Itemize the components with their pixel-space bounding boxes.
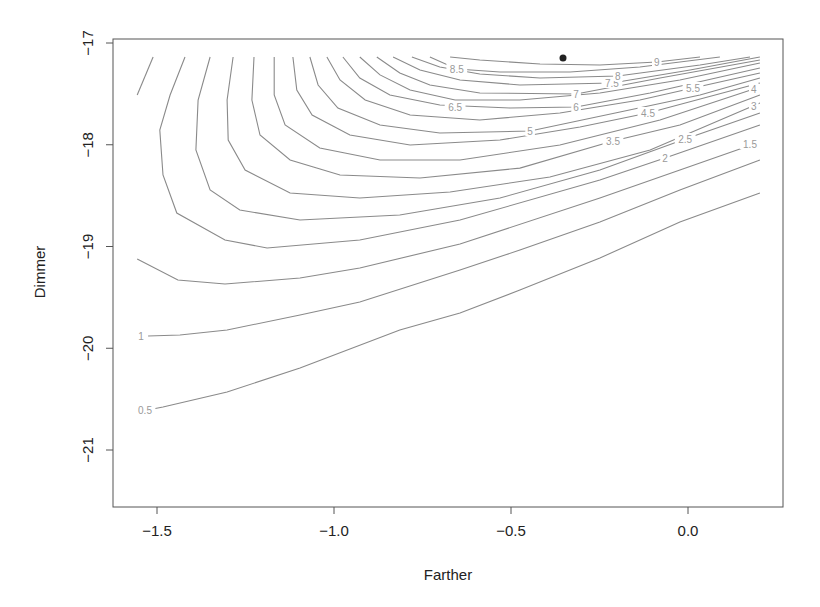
contour-label: 2.5 bbox=[678, 134, 692, 145]
contour-label: 1 bbox=[138, 331, 144, 342]
x-tick-label: 0.0 bbox=[678, 522, 699, 539]
contour-label: 8.5 bbox=[450, 64, 464, 75]
contour-label: 3 bbox=[751, 101, 757, 112]
y-tick-label: −18 bbox=[79, 132, 96, 157]
contour-line-3 bbox=[227, 57, 760, 198]
contour-label: 3.5 bbox=[606, 136, 620, 147]
y-axis-label: Dimmer bbox=[31, 246, 48, 299]
contour-label: 2 bbox=[662, 153, 668, 164]
contour-label: 4.5 bbox=[641, 108, 655, 119]
contour-line-0-5 bbox=[137, 193, 760, 412]
contour-label: 5.5 bbox=[686, 83, 700, 94]
contour-chart: 0.511.522.533.544.555.566.577.588.59 −1.… bbox=[0, 0, 820, 607]
contour-line-2 bbox=[160, 57, 760, 248]
contour-label: 4 bbox=[751, 84, 757, 95]
x-tick-label: −1.5 bbox=[142, 522, 172, 539]
contour-labels: 0.511.522.533.544.555.566.577.588.59 bbox=[135, 56, 761, 416]
x-axis-label: Farther bbox=[424, 566, 472, 583]
y-tick-label: −20 bbox=[79, 336, 96, 361]
y-tick-label: −19 bbox=[79, 234, 96, 259]
y-tick-label: −21 bbox=[79, 437, 96, 462]
contour-label: 6 bbox=[573, 102, 579, 113]
contour-line-1 bbox=[148, 160, 760, 336]
contour-label: 5 bbox=[527, 126, 533, 137]
contour-label: 0.5 bbox=[138, 405, 152, 416]
contour-label: 9 bbox=[654, 57, 660, 68]
x-tick-label: −1.0 bbox=[319, 522, 349, 539]
contour-label: 6.5 bbox=[448, 102, 462, 113]
contour-label: 1.5 bbox=[743, 139, 757, 150]
x-axis: −1.5−1.0−0.50.0 bbox=[142, 507, 698, 539]
y-axis: −17−18−19−20−21 bbox=[79, 30, 113, 462]
maximum-point-marker bbox=[560, 55, 567, 62]
contour-line-1-5 bbox=[137, 57, 153, 95]
contour-label: 8 bbox=[615, 71, 621, 82]
y-tick-label: −17 bbox=[79, 30, 96, 55]
x-tick-label: −0.5 bbox=[496, 522, 526, 539]
contour-label: 7 bbox=[573, 89, 579, 100]
contour-line-5 bbox=[310, 57, 760, 133]
